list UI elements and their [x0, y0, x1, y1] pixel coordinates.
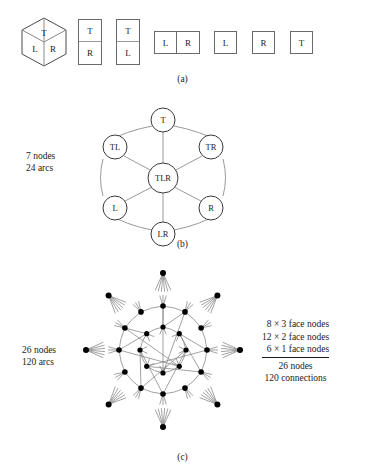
summary-line: 8 × 3 face nodes — [262, 318, 329, 331]
summary-line: 6 × 1 face nodes — [262, 343, 329, 356]
tile-cell: T — [117, 20, 139, 42]
cube-face-label-t: T — [38, 28, 50, 38]
tile-t: T — [290, 31, 313, 54]
face-node-middle — [160, 303, 166, 309]
panel-c: 26 nodes 120 arcs 8 × 3 face nodes 12 × … — [0, 258, 365, 475]
face-node-middle — [160, 391, 166, 397]
summary-line: 12 × 2 face nodes — [262, 331, 329, 344]
cube-svg — [18, 16, 70, 68]
panel-b: 7 nodes 24 arcs — [0, 95, 365, 260]
face-node-inner — [144, 331, 149, 336]
face-node-middle — [198, 369, 204, 375]
ring-arc — [141, 388, 163, 394]
tile-r: R — [252, 31, 275, 54]
face-node-middle — [182, 385, 188, 391]
cube-face-label-l: L — [29, 44, 41, 54]
ring-arc — [125, 372, 141, 388]
cube-face-label-r: R — [47, 44, 59, 54]
spoke-tl-tlr — [124, 156, 152, 171]
face-node-middle — [138, 309, 144, 315]
radial-arc — [163, 312, 185, 327]
spoke-tr-tlr — [174, 156, 202, 171]
tile-cell: L — [155, 32, 177, 53]
radial-arc — [147, 366, 201, 372]
node-label-lr: LR — [158, 229, 169, 239]
ring-arc — [125, 312, 141, 328]
ring-arc — [185, 372, 201, 388]
radial-arc — [163, 312, 185, 373]
face-node-middle — [204, 347, 210, 353]
caption-a: (a) — [0, 74, 365, 84]
tile-cell: L — [117, 42, 139, 64]
face-node-outer — [237, 347, 243, 353]
face-node-middle — [182, 309, 188, 315]
face-node-middle — [198, 325, 204, 331]
face-node-inner — [177, 331, 182, 336]
caption-c: (c) — [0, 452, 365, 462]
node-label-t: T — [160, 115, 165, 125]
summary-total: 120 connections — [262, 372, 329, 385]
face-node-middle — [138, 385, 144, 391]
face-node-outer — [214, 293, 220, 299]
face-node-inner — [160, 370, 165, 375]
ring-arc — [119, 350, 125, 372]
graph-b-svg — [0, 95, 365, 260]
spoke-l-tlr — [125, 187, 152, 201]
tile-cell: R — [253, 32, 274, 53]
face-node-inner — [137, 347, 142, 352]
summary-total: 26 nodes — [262, 360, 329, 373]
node-label-r: R — [208, 203, 214, 213]
tile-cell: R — [79, 42, 101, 64]
tile-cell: L — [215, 32, 236, 53]
face-node-inner — [177, 364, 182, 369]
radial-arc — [125, 328, 179, 366]
tile-cell: T — [79, 20, 101, 42]
radial-arc — [147, 350, 207, 366]
ring-arc — [141, 306, 163, 312]
radial-arc — [125, 328, 147, 334]
cube-isometric: T L R — [18, 16, 70, 68]
ring-arc — [185, 312, 201, 328]
face-node-middle — [122, 369, 128, 375]
radial-arc — [141, 350, 186, 388]
tile-t-l: T L — [116, 19, 140, 65]
tile-cell: T — [291, 32, 312, 53]
node-label-tl: TL — [110, 142, 120, 152]
summary-rule — [262, 357, 329, 358]
tile-l-r: L R — [154, 31, 200, 54]
face-node-outer — [83, 347, 89, 353]
face-node-middle — [122, 325, 128, 331]
panel-c-summary: 8 × 3 face nodes 12 × 2 face nodes 6 × 1… — [262, 318, 329, 385]
ring-arc — [163, 306, 185, 312]
face-node-inner — [183, 347, 188, 352]
face-node-outer — [106, 401, 112, 407]
face-node-inner — [144, 364, 149, 369]
node-label-l: L — [112, 203, 117, 213]
arc-tr-r — [223, 159, 226, 196]
caption-b: (b) — [0, 239, 365, 249]
arc-tl-l — [101, 159, 104, 196]
tile-t-r: T R — [78, 19, 102, 65]
node-label-tr: TR — [206, 142, 217, 152]
panel-a: T L R T R T L L R L R T (a) — [0, 0, 365, 95]
figure-root: T L R T R T L L R L R T (a) — [0, 0, 365, 475]
face-node-middle — [116, 347, 122, 353]
spoke-r-tlr — [174, 187, 201, 201]
tile-cell: R — [177, 32, 199, 53]
node-label-tlr: TLR — [155, 173, 171, 183]
ring-arc — [163, 388, 185, 394]
tile-l: L — [214, 31, 237, 54]
ring-arc — [201, 350, 207, 372]
face-node-outer — [106, 293, 112, 299]
face-node-outer — [160, 270, 166, 276]
face-node-outer — [214, 401, 220, 407]
face-node-outer — [160, 424, 166, 430]
face-node-inner — [160, 324, 165, 329]
